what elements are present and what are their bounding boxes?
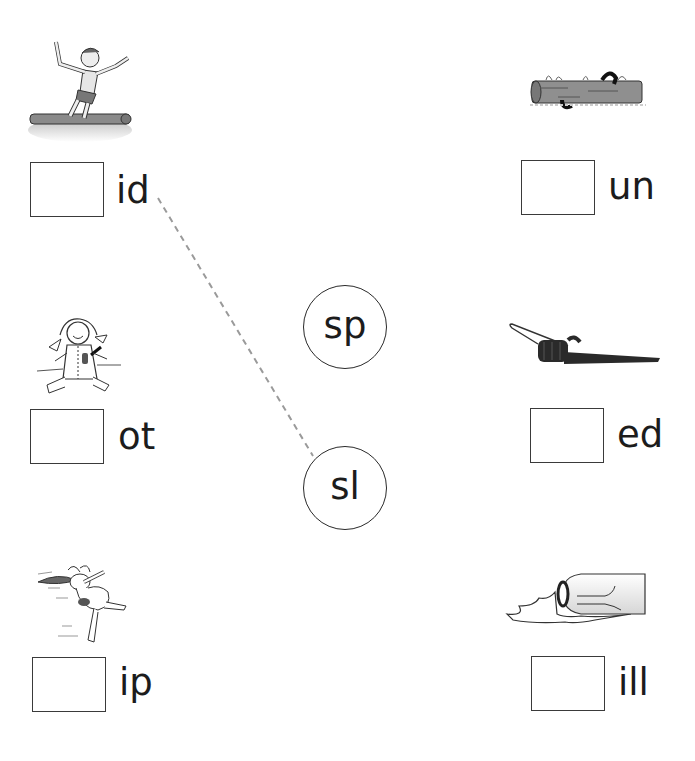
blend-circle-sp[interactable]: sp [303, 285, 387, 369]
answer-box-ill[interactable] [531, 656, 605, 711]
answer-box-ed[interactable] [530, 408, 604, 463]
blend-label-sl: sl [330, 468, 360, 505]
word-ending-ip: ip [119, 664, 153, 701]
doll-with-pocket-picture [35, 313, 125, 395]
blend-matching-worksheet: id un ot [0, 0, 695, 761]
log-in-water-picture [528, 70, 652, 112]
word-ending-un: un [608, 168, 655, 205]
word-ending-ot: ot [118, 418, 155, 455]
answer-box-id[interactable] [30, 162, 104, 217]
word-ending-ed: ed [617, 416, 663, 453]
answer-box-un[interactable] [521, 160, 595, 215]
rabbit-jumping-picture [28, 562, 136, 650]
boy-slipping-off-log-picture [28, 28, 140, 146]
spilled-bottle-picture [505, 570, 655, 630]
answer-box-ip[interactable] [32, 657, 106, 712]
word-ending-id: id [116, 172, 150, 209]
answer-box-ot[interactable] [30, 409, 104, 464]
sled-picture [508, 322, 664, 372]
blend-circle-sl[interactable]: sl [303, 446, 387, 530]
word-ending-ill: ill [618, 664, 649, 701]
blend-label-sp: sp [324, 307, 367, 344]
